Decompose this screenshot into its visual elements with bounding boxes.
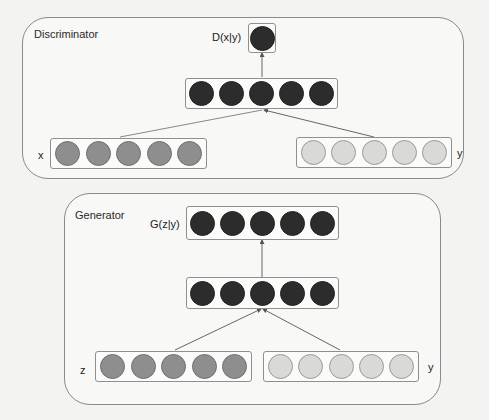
generator-y-input-layer bbox=[263, 351, 419, 382]
gen-output-node bbox=[250, 211, 275, 236]
discriminator-output-layer bbox=[248, 23, 276, 53]
y-input-node bbox=[331, 140, 356, 165]
y-input-node bbox=[362, 140, 387, 165]
gen-hidden-node bbox=[250, 281, 275, 306]
output-node bbox=[250, 26, 275, 51]
z-input-node bbox=[131, 354, 156, 379]
z-input-node bbox=[192, 354, 217, 379]
hidden-node bbox=[219, 81, 244, 106]
hidden-node bbox=[249, 81, 274, 106]
edge-x-to-hidden bbox=[120, 110, 262, 137]
discriminator-output-label: D(x|y) bbox=[212, 31, 241, 43]
edge-y-to-hidden bbox=[264, 110, 374, 137]
discriminator-y-input-layer bbox=[296, 137, 452, 168]
discriminator-x-label: x bbox=[38, 149, 44, 161]
gen-hidden-node bbox=[190, 281, 215, 306]
hidden-node bbox=[279, 81, 304, 106]
x-input-node bbox=[86, 141, 111, 166]
discriminator-hidden-layer bbox=[185, 78, 338, 109]
gen-y-input-node bbox=[298, 354, 323, 379]
generator-z-label: z bbox=[80, 364, 86, 376]
y-input-node bbox=[301, 140, 326, 165]
edge-z-to-hidden bbox=[175, 309, 261, 350]
gen-output-node bbox=[280, 211, 305, 236]
generator-y-label: y bbox=[428, 361, 434, 373]
discriminator-x-input-layer bbox=[50, 138, 207, 169]
generator-z-input-layer bbox=[95, 351, 252, 382]
gen-output-node bbox=[310, 211, 335, 236]
x-input-node bbox=[116, 141, 141, 166]
x-input-node bbox=[147, 141, 172, 166]
z-input-node bbox=[100, 354, 125, 379]
gen-y-input-node bbox=[359, 354, 384, 379]
x-input-node bbox=[55, 141, 80, 166]
gen-output-node bbox=[190, 211, 215, 236]
discriminator-y-label: y bbox=[457, 147, 463, 159]
gen-y-input-node bbox=[268, 354, 293, 379]
generator-output-layer bbox=[186, 206, 339, 240]
generator-output-label: G(z|y) bbox=[150, 218, 180, 230]
gen-hidden-node bbox=[280, 281, 305, 306]
generator-hidden-layer bbox=[186, 277, 339, 309]
y-input-node bbox=[392, 140, 417, 165]
x-input-node bbox=[177, 141, 202, 166]
gen-output-node bbox=[220, 211, 245, 236]
gen-y-input-node bbox=[389, 354, 414, 379]
z-input-node bbox=[222, 354, 247, 379]
gen-hidden-node bbox=[220, 281, 245, 306]
y-input-node bbox=[422, 140, 447, 165]
gen-hidden-node bbox=[310, 281, 335, 306]
hidden-node bbox=[309, 81, 334, 106]
hidden-node bbox=[189, 81, 214, 106]
z-input-node bbox=[161, 354, 186, 379]
edge-gen-y-to-hidden bbox=[263, 309, 340, 350]
gen-y-input-node bbox=[329, 354, 354, 379]
